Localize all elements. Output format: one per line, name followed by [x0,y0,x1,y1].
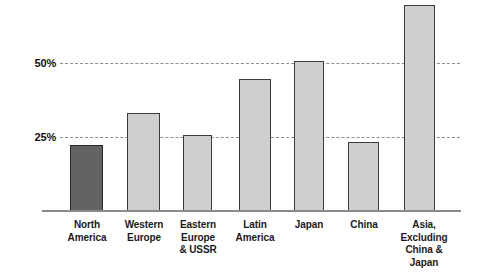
plot-area: 50% 25% North America Western Europe Eas… [0,0,483,276]
bar-japan[interactable] [294,61,324,211]
gridline-50 [60,63,460,64]
x-axis-line [42,210,461,212]
y-axis-tick-25: 25% [0,132,56,143]
x-axis-label-latin-america: Latin America [224,219,286,244]
x-axis-label-north-america: North America [56,219,118,244]
x-axis-label-china: China [333,219,395,232]
bar-eastern-europe-ussr[interactable] [183,135,212,211]
x-axis-label-western-europe: Western Europe [113,219,175,244]
bar-latin-america[interactable] [239,79,271,211]
x-axis-label-japan: Japan [278,219,340,232]
bar-north-america[interactable] [70,145,103,211]
x-axis-label-eastern-europe-ussr: Eastern Europe & USSR [167,219,229,257]
bar-chart: 50% 25% North America Western Europe Eas… [0,0,483,276]
y-axis-tick-50: 50% [0,58,56,69]
x-axis-label-asia-excluding-china-japan: Asia, Excluding China & Japan [389,219,459,269]
bar-western-europe[interactable] [127,113,160,211]
bar-asia-excluding-china-japan[interactable] [404,5,435,211]
bar-china[interactable] [348,142,379,211]
